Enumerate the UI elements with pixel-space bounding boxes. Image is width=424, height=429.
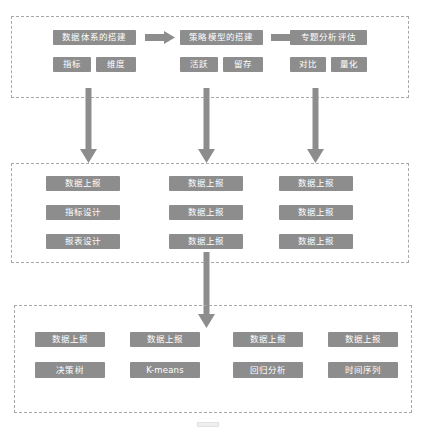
bottom-c4-r2[interactable]: 时间序列 (328, 362, 398, 378)
arrow-down-icon-1 (80, 88, 97, 163)
middle-c2-r1[interactable]: 数据上报 (169, 176, 243, 191)
stage-title-1[interactable]: 数据体系的搭建 (53, 30, 136, 45)
middle-c3-r3[interactable]: 数据上报 (279, 234, 353, 249)
arrow-right-icon-1 (145, 31, 175, 43)
bottom-c2-r2[interactable]: K-means (130, 362, 200, 378)
stage-title-3[interactable]: 专题分析评估 (290, 30, 367, 45)
arrow-down-icon-3 (307, 88, 324, 163)
middle-c2-r2[interactable]: 数据上报 (169, 205, 243, 220)
stage-1-sub-1[interactable]: 指标 (53, 57, 91, 72)
stage-3-sub-2[interactable]: 量化 (331, 57, 367, 72)
bottom-c2-r1[interactable]: 数据上报 (130, 332, 200, 347)
diagram-canvas: 数据体系的搭建 指标 维度 策略模型的搭建 活跃 留存 专题分析评估 对比 量化 (0, 0, 424, 429)
bottom-c3-r1[interactable]: 数据上报 (233, 332, 303, 347)
middle-c1-r1[interactable]: 数据上报 (46, 176, 120, 191)
middle-c1-r3[interactable]: 报表设计 (46, 234, 120, 249)
arrow-down-icon-2 (198, 88, 215, 163)
stage-3-sub-1[interactable]: 对比 (290, 57, 326, 72)
middle-c3-r1[interactable]: 数据上报 (279, 176, 353, 191)
stage-title-2[interactable]: 策略模型的搭建 (180, 30, 263, 45)
stage-2-sub-1[interactable]: 活跃 (180, 57, 218, 72)
bottom-c4-r1[interactable]: 数据上报 (328, 332, 398, 347)
middle-c2-r3[interactable]: 数据上报 (169, 234, 243, 249)
bottom-c3-r2[interactable]: 回归分析 (233, 362, 303, 378)
panel-models (14, 305, 412, 413)
stage-1-sub-2[interactable]: 维度 (96, 57, 136, 72)
bottom-c1-r1[interactable]: 数据上报 (35, 332, 105, 347)
middle-c1-r2[interactable]: 指标设计 (46, 205, 120, 220)
bottom-c1-r2[interactable]: 决策树 (35, 362, 105, 378)
stage-2-sub-2[interactable]: 留存 (223, 57, 263, 72)
middle-c3-r2[interactable]: 数据上报 (279, 205, 353, 220)
page-footer-mark (197, 422, 219, 427)
